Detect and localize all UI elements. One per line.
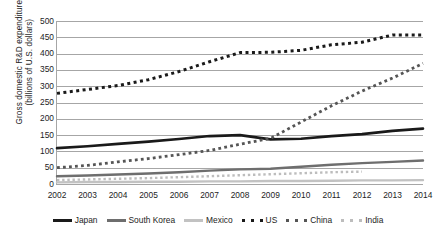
y-tick-label: 500 — [20, 17, 54, 26]
x-tick-label: 2003 — [73, 190, 103, 200]
y-tick-label: 450 — [20, 33, 54, 42]
legend-label: US — [266, 215, 278, 225]
x-tick-label: 2012 — [347, 190, 377, 200]
y-tick-label: 350 — [20, 65, 54, 74]
legend-item-mexico[interactable]: Mexico — [184, 215, 233, 225]
y-tick-label: 250 — [20, 98, 54, 107]
legend-swatch-japan — [53, 219, 72, 222]
x-axis-tick-labels: 2002200320042005200620072008200920102011… — [57, 190, 423, 202]
x-tick-label: 2013 — [378, 190, 408, 200]
x-tick-label: 2006 — [164, 190, 194, 200]
x-tick-label: 2004 — [103, 190, 133, 200]
y-tick-label: 400 — [20, 49, 54, 58]
legend-swatch-china — [286, 218, 307, 222]
series-layer — [57, 21, 423, 184]
plot-area — [57, 21, 423, 184]
y-tick-label: 50 — [20, 163, 54, 172]
x-tick-label: 2010 — [286, 190, 316, 200]
gridline-0 — [57, 184, 423, 185]
x-tick-label: 2008 — [225, 190, 255, 200]
x-tick-label: 2005 — [134, 190, 164, 200]
rd-expenditure-line-chart: Gross domestic R&D expenditure (billions… — [0, 0, 436, 239]
legend-label: South Korea — [129, 215, 176, 225]
legend-item-china[interactable]: China — [286, 215, 332, 225]
x-tick-label: 2011 — [317, 190, 347, 200]
y-axis-tick-labels: 050100150200250300350400450500 — [20, 14, 54, 192]
legend-swatch-south-korea — [107, 219, 126, 222]
legend-label: Mexico — [206, 215, 233, 225]
y-tick-label: 200 — [20, 114, 54, 123]
series-line-japan — [57, 129, 423, 149]
series-line-us — [57, 35, 423, 93]
chart-legend: JapanSouth KoreaMexicoUSChinaIndia — [0, 211, 436, 229]
y-tick-label: 0 — [20, 180, 54, 189]
y-tick-label: 100 — [20, 147, 54, 156]
legend-item-india[interactable]: India — [341, 215, 383, 225]
legend-item-south-korea[interactable]: South Korea — [107, 215, 176, 225]
x-tick-label: 2002 — [42, 190, 72, 200]
y-tick-label: 150 — [20, 131, 54, 140]
legend-swatch-mexico — [184, 219, 203, 222]
legend-swatch-india — [341, 218, 362, 222]
x-tick-label: 2014 — [408, 190, 436, 200]
legend-item-us[interactable]: US — [242, 215, 278, 225]
x-tick-label: 2009 — [256, 190, 286, 200]
legend-label: China — [310, 215, 332, 225]
y-tick-label: 300 — [20, 82, 54, 91]
legend-label: Japan — [75, 215, 98, 225]
series-line-china — [57, 63, 423, 167]
series-line-mexico — [57, 180, 423, 182]
legend-swatch-us — [242, 218, 263, 222]
legend-item-japan[interactable]: Japan — [53, 215, 98, 225]
x-tick-label: 2007 — [195, 190, 225, 200]
legend-label: India — [365, 215, 383, 225]
